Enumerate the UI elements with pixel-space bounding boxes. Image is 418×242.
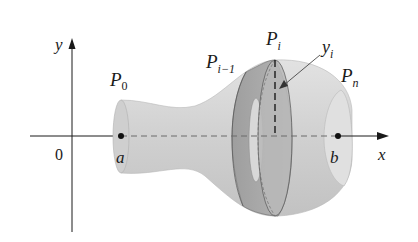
y-axis-label: y <box>53 35 63 54</box>
point-b-label: b <box>330 148 339 167</box>
label-p-i: Pi <box>265 28 281 53</box>
label-p0: P0 <box>109 69 128 93</box>
y-axis-arrow-icon <box>69 38 76 49</box>
surface-of-revolution-diagram: y 0 x a b P0 Pi−1 Pi yi Pn <box>0 0 418 242</box>
point-a <box>118 133 124 139</box>
x-axis-arrow-icon <box>377 132 389 140</box>
point-a-label: a <box>116 148 125 167</box>
origin-label: 0 <box>55 146 63 163</box>
label-p-i-minus-1: Pi−1 <box>205 51 235 76</box>
point-b <box>335 133 341 139</box>
x-axis-label: x <box>377 145 386 164</box>
label-y-i: yi <box>320 37 333 61</box>
